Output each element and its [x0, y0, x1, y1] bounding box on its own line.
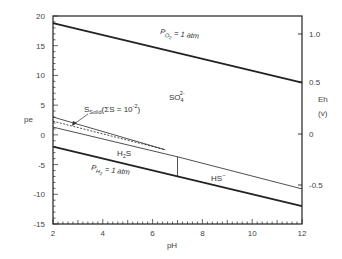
y-tick-label: 10 [36, 71, 45, 80]
y-tick-label: -15 [33, 220, 45, 229]
y-tick-label: -5 [38, 161, 46, 170]
y2-tick-label: 0.5 [309, 78, 321, 87]
y2-tick-label: 0 [309, 130, 314, 139]
series-line [53, 117, 165, 150]
y-axis-title: pe [24, 115, 33, 124]
x-tick-label: 12 [298, 229, 307, 238]
hs-label: HS− [211, 172, 225, 183]
series-line [53, 121, 165, 150]
series-line [178, 157, 303, 189]
series-line [53, 127, 178, 157]
plot-frame [53, 16, 302, 224]
y-tick-label: 15 [36, 42, 45, 51]
ssolid-arrow [72, 114, 88, 126]
x-tick-label: 2 [51, 229, 56, 238]
ssolid-label: SSolid(ΣS = 10-2) [84, 103, 140, 115]
x-tick-label: 8 [200, 229, 205, 238]
y-tick-labels: 20151050-5-10-15 [33, 12, 45, 229]
y2-axis-unit: (v) [318, 109, 328, 118]
x-axis-title: pH [167, 241, 177, 250]
x-tick-label: 10 [248, 229, 257, 238]
so4-label: SO42- [169, 90, 185, 103]
axis-ticks [53, 16, 302, 224]
y2-tick-label: -0.5 [309, 181, 323, 190]
y-tick-label: 0 [41, 131, 46, 140]
y2-tick-label: 1.0 [309, 30, 321, 39]
y-tick-label: 5 [41, 101, 46, 110]
h2s-label: H2S [117, 149, 131, 159]
eh-ph-chart: 20151050-5-10-15 24681012 1.00.50-0.5 pe… [0, 0, 342, 259]
y-tick-label: 20 [36, 12, 45, 21]
x-tick-label: 6 [150, 229, 155, 238]
po2-label: PO2 = 1 atm [159, 27, 199, 44]
y2-axis-title: Eh [318, 95, 328, 104]
ph2-label: PH2 = 1 atm [90, 163, 130, 180]
x-tick-label: 4 [101, 229, 106, 238]
y-tick-label: -10 [33, 190, 45, 199]
x-tick-labels: 24681012 [51, 229, 307, 238]
